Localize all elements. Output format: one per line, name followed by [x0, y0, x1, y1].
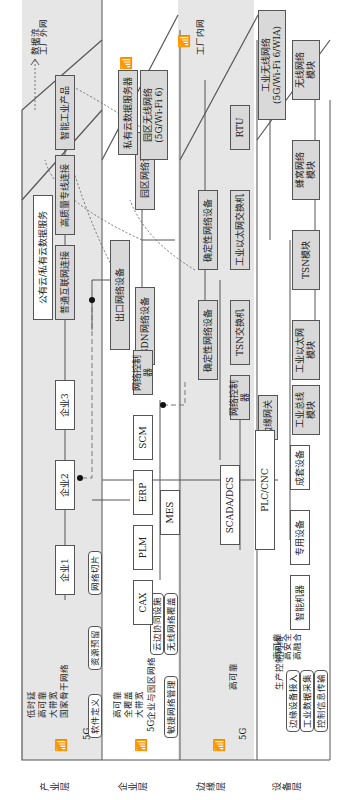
- complete-equipment: 成套设备: [290, 445, 310, 490]
- wireless-coverage-pill: 无线网络覆盖: [164, 593, 178, 655]
- 5g-tower-icon: 📶: [213, 738, 226, 752]
- 5g-tower-icon: 📶: [120, 56, 133, 70]
- industrial-fieldbus-module: 工业总线 模块: [292, 385, 320, 435]
- edge-device-access-pill: 边缘设备接入: [286, 670, 300, 732]
- scada-dcs-node: SCADA/DCS: [220, 465, 240, 545]
- industrial-ethernet-module: 工业以太网 模块: [292, 320, 320, 380]
- industrial-ethernet-switch: 工业以太网交换机: [230, 190, 250, 270]
- specialized-equipment: 专用设备: [290, 510, 310, 565]
- campus-wireless-network: 园区无线网络 (5G/Wi-Fi 6): [140, 70, 168, 160]
- smart-machine: 智能机器: [290, 575, 310, 630]
- device-layer-label: 设备层: [272, 779, 302, 792]
- enterprise-feature-1: 高可靠: [112, 691, 122, 718]
- rtu-node: RTU: [230, 105, 250, 150]
- app-cax: CAX: [133, 580, 153, 625]
- data-flow-legend: 数据流: [30, 28, 40, 55]
- network-architecture-diagram: 工厂外网 工厂内网 数据流 产业层 企业层 边缘层 设备层 📶 5G 📶 📶 5…: [0, 0, 338, 800]
- industrial-wireless-network: 工业无线网络 (5G/Wi-Fi 6/WIA): [258, 10, 286, 120]
- mes-node: MES: [160, 490, 180, 535]
- 5g-tower-icon: 📶: [135, 738, 148, 752]
- device-feature-1: 高可靠: [228, 663, 238, 690]
- device-feature-fusion: 高融合: [292, 633, 302, 660]
- wireless-network-module: 无线网络 模块: [292, 40, 320, 100]
- edge-5g-label: 5G: [238, 728, 248, 740]
- enterprise-network-label: 5G企业与园区网络: [146, 657, 156, 732]
- egress-network-device: 出口网络设备: [110, 240, 130, 350]
- deterministic-network-device-2: 确定性网络设备: [198, 190, 218, 270]
- tsn-module: TSN模块: [292, 230, 320, 290]
- software-defined-pill: 软件定义: [88, 694, 102, 738]
- edge-layer-label: 边缘层: [196, 779, 226, 792]
- app-plm: PLM: [133, 525, 153, 570]
- agile-network-mgmt-pill: 敏捷网络管理: [164, 676, 178, 738]
- private-cloud-server: 私有云数据服务器: [118, 70, 138, 155]
- industry-feature-1: 低时延: [26, 691, 36, 718]
- leased-line-connection: 高质量专线连接: [55, 155, 75, 235]
- internet-connection: 普通互联网连接: [55, 245, 75, 320]
- edge-network-controller: 网络控制器: [230, 375, 250, 420]
- network-slicing-pill: 网络切片: [88, 551, 102, 595]
- network-controller: 网络控制器: [133, 350, 153, 395]
- enterprise-3-node: 企业3: [55, 380, 75, 430]
- 5g-tower-icon: 📶: [55, 738, 68, 752]
- industry-network-label: 国家骨干网络: [59, 664, 69, 718]
- app-erp: ERP: [133, 470, 153, 515]
- industrial-data-collection-pill: 工业数据采集: [300, 670, 314, 732]
- deterministic-network-device-1: 确定性网络设备: [198, 300, 218, 380]
- industry-layer-label: 产业层: [40, 779, 70, 792]
- 5g-tower-icon: 📶: [178, 34, 191, 48]
- control-info-transmission-pill: 控制信息传输: [314, 670, 328, 732]
- tsn-switch: TSN交换机: [230, 300, 250, 365]
- device-network-label: 生产控制网络: [274, 636, 284, 690]
- resource-reservation-pill: 资源预留: [88, 626, 102, 670]
- enterprise-2-node: 企业2: [55, 460, 75, 510]
- enterprise-feature-2: 全覆盖: [123, 691, 133, 718]
- enterprise-layer-label: 企业层: [118, 779, 148, 792]
- app-scm: SCM: [133, 415, 153, 460]
- enterprise-feature-3: 大带宽: [134, 691, 144, 718]
- enterprise-1-node: 企业1: [55, 545, 75, 595]
- industry-feature-2: 高可靠: [37, 691, 47, 718]
- factory-inner-label: 工厂内网: [195, 19, 205, 55]
- plc-cnc-node: PLC/CNC: [255, 430, 275, 550]
- cloud-data-service: 公有云/私有云数据服务: [33, 195, 53, 320]
- cellular-network-module: 蜂窝网络 模块: [292, 140, 320, 200]
- industry-feature-3: 大带宽: [48, 691, 58, 718]
- smart-industrial-product: 智能工业产品: [55, 75, 75, 150]
